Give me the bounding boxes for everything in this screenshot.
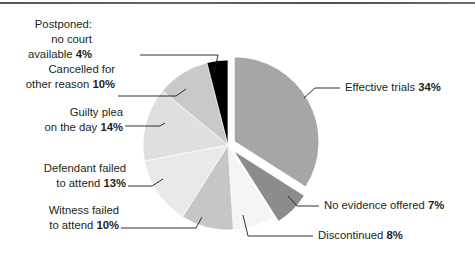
label-no-evidence-text: No evidence offered — [324, 199, 428, 211]
label-guilty-plea-line1: Guilty plea — [44, 105, 123, 120]
label-defendant-value: 13% — [103, 177, 126, 189]
label-guilty-plea-line2: on the day 14% — [44, 120, 123, 135]
label-defendant-text: to attend — [56, 177, 103, 189]
label-discontinued-text: Discontinued — [318, 229, 386, 241]
label-defendant-line1: Defendant failed — [44, 161, 126, 176]
label-effective-trials-value: 34% — [418, 81, 441, 93]
label-postponed-line2: no court — [28, 32, 92, 47]
label-cancelled-line1: Cancelled for — [26, 62, 115, 77]
label-witness-value: 10% — [96, 219, 119, 231]
label-discontinued-line1: Discontinued 8% — [318, 228, 403, 243]
label-defendant: Defendant failed to attend 13% — [44, 161, 126, 191]
pie-chart-figure: Effective trials 34%No evidence offered … — [0, 0, 475, 259]
label-discontinued: Discontinued 8% — [318, 228, 403, 243]
label-guilty-plea-value: 14% — [100, 121, 123, 133]
label-guilty-plea: Guilty plea on the day 14% — [44, 105, 123, 135]
label-discontinued-value: 8% — [386, 229, 402, 241]
label-postponed-line1: Postponed: — [28, 17, 92, 32]
label-witness: Witness failed to attend 10% — [49, 203, 119, 233]
label-cancelled-value: 10% — [92, 78, 115, 90]
label-cancelled-text: other reason — [26, 78, 93, 90]
pie-slices-group: Effective trials 34%No evidence offered … — [143, 57, 319, 230]
label-cancelled: Cancelled for other reason 10% — [26, 62, 115, 92]
label-witness-text: to attend — [49, 219, 96, 231]
label-effective-trials-line1: Effective trials 34% — [345, 80, 441, 95]
label-postponed-line3: available 4% — [28, 47, 92, 62]
label-postponed: Postponed: no court available 4% — [28, 17, 92, 62]
label-defendant-line2: to attend 13% — [44, 176, 126, 191]
label-guilty-plea-text: on the day — [44, 121, 100, 133]
label-no-evidence-line1: No evidence offered 7% — [324, 198, 444, 213]
label-no-evidence: No evidence offered 7% — [324, 198, 444, 213]
label-effective-trials-text: Effective trials — [345, 81, 418, 93]
label-cancelled-line2: other reason 10% — [26, 77, 115, 92]
label-witness-line1: Witness failed — [49, 203, 119, 218]
label-postponed-text: available — [28, 48, 76, 60]
label-witness-line2: to attend 10% — [49, 218, 119, 233]
label-effective-trials: Effective trials 34% — [345, 80, 441, 95]
label-no-evidence-value: 7% — [428, 199, 444, 211]
label-postponed-value: 4% — [76, 48, 92, 60]
leader-line-effective — [304, 88, 340, 98]
